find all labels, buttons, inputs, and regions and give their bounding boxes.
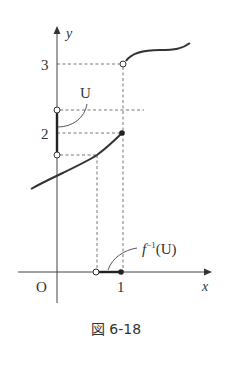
x-axis-label: x — [201, 279, 209, 294]
preimage-label: f−1(U) — [142, 240, 177, 258]
set-U-label: U — [80, 85, 91, 101]
curve-upper-branch — [126, 43, 190, 61]
function-preimage-diagram: y x O 1 3 2 U f−1(U) 図 6-18 — [0, 0, 233, 366]
y-axis-arrow-icon — [54, 26, 61, 34]
x-tick-1: 1 — [117, 279, 125, 295]
filled-point-y2 — [119, 130, 125, 136]
y-axis-label: y — [64, 26, 73, 41]
y-tick-2: 2 — [41, 126, 49, 142]
open-point-U-bottom — [54, 152, 60, 158]
preimage-arg: (U) — [156, 241, 177, 258]
preimage-superscript: −1 — [146, 240, 156, 250]
x-axis-arrow-icon — [204, 269, 212, 276]
open-point-y3 — [120, 61, 126, 67]
origin-label: O — [36, 279, 47, 295]
preimage-leader-line — [108, 248, 137, 270]
dashed-guides — [57, 64, 144, 272]
y-tick-3: 3 — [41, 57, 49, 73]
filled-point-x1 — [118, 269, 124, 275]
open-point-U-top — [54, 107, 60, 113]
figure-caption: 図 6-18 — [91, 321, 141, 337]
open-point-preimage-left — [93, 269, 99, 275]
U-leader-line — [58, 104, 87, 127]
